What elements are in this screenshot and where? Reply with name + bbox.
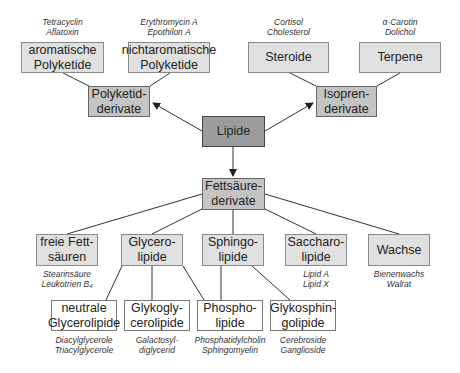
node-terpene: Terpene xyxy=(359,42,441,73)
node-wachse: Wachse xyxy=(368,234,430,266)
example-wachse: Bienenwachs Walrat xyxy=(359,269,439,289)
node-freie-fettsaeuren: freie Fett- säuren xyxy=(36,234,98,266)
node-lipide-root: Lipide xyxy=(202,116,265,147)
example-neutrale-glycerolipide: Diacylglycerole Triacylglycerole xyxy=(44,335,124,355)
node-phospholipide: Phospho- lipide xyxy=(197,300,263,331)
example-steroide: Cortisol Cholesterol xyxy=(248,17,329,37)
example-terpene: α-Carotin Dolichol xyxy=(359,17,441,37)
node-steroide: Steroide xyxy=(248,42,329,73)
node-sphingolipide: Sphingo- lipide xyxy=(202,234,264,266)
node-isoprenderivate: Isopren- derivate xyxy=(316,86,377,117)
node-nichtaromatische-polyketide: nichtaromatische Polyketide xyxy=(128,42,210,73)
node-polyketidderivate: Polyketid- derivate xyxy=(88,86,150,117)
node-glykoglycerolipide: Glykogly- cerolipide xyxy=(124,300,190,331)
node-neutrale-glycerolipide: neutrale Glycerolipide xyxy=(51,300,117,331)
example-nichtaromatische-polyketide: Erythromycin A Epothilon A xyxy=(128,17,210,37)
example-freie-fettsaeuren: Stearinsäure Leukotrien B₄ xyxy=(26,269,108,289)
node-glykosphingolipide: Glykosphin- golipide xyxy=(270,300,336,331)
example-aromatische-polyketide: Tetracyclin Aflatoxin xyxy=(21,17,104,37)
node-fettsaeurederivate: Fettsäure- derivate xyxy=(202,178,265,210)
node-aromatische-polyketide: aromatische Polyketide xyxy=(21,42,104,73)
example-phospholipide: Phosphatidylcholin Sphingomyelin xyxy=(185,335,275,355)
node-saccharolipide: Saccharo- lipide xyxy=(285,234,347,266)
example-saccharolipide: Lipid A Lipid X xyxy=(276,269,356,289)
node-glycerolipide: Glycero- lipide xyxy=(121,234,183,266)
example-glykosphingolipide: Cerebroside Ganglioside xyxy=(263,335,343,355)
